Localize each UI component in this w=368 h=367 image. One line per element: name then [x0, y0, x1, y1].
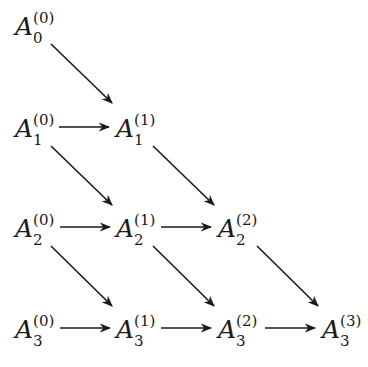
node-subscript: 2 [134, 233, 144, 248]
arrow-A22-to-A33 [257, 246, 318, 306]
node-subscript: 2 [33, 233, 43, 248]
node-subscript: 3 [236, 334, 246, 349]
node-base: A [116, 116, 134, 141]
node-base: A [116, 216, 134, 241]
node-base: A [15, 116, 33, 141]
node-base: A [322, 317, 340, 342]
arrow-A11-to-A22 [153, 146, 214, 205]
arrow-A00-to-A11 [51, 44, 112, 103]
node-base: A [116, 317, 134, 342]
node-subscript: 2 [236, 233, 246, 248]
arrow-A20-to-A31 [51, 246, 112, 306]
node-A1-1: A(1)1 [116, 116, 160, 150]
node-subscript: 3 [134, 334, 144, 349]
node-superscript: (2) [236, 213, 257, 228]
node-superscript: (0) [33, 11, 54, 26]
node-superscript: (0) [33, 113, 54, 128]
node-base: A [15, 317, 33, 342]
node-subscript: 1 [33, 133, 43, 148]
node-A3-3: A(3)3 [322, 317, 366, 351]
node-A2-0: A(0)2 [15, 216, 59, 250]
node-A3-0: A(0)3 [15, 317, 59, 351]
node-base: A [15, 216, 33, 241]
node-A2-2: A(2)2 [218, 216, 262, 250]
arrow-A10-to-A21 [51, 146, 112, 205]
node-superscript: (2) [236, 314, 257, 329]
node-subscript: 3 [340, 334, 350, 349]
node-superscript: (1) [134, 314, 155, 329]
node-subscript: 0 [33, 31, 43, 46]
node-A3-1: A(1)3 [116, 317, 160, 351]
node-base: A [218, 317, 236, 342]
node-subscript: 1 [134, 133, 144, 148]
node-superscript: (3) [340, 314, 361, 329]
node-superscript: (1) [134, 213, 155, 228]
arrows-layer [0, 0, 368, 367]
node-base: A [15, 14, 33, 39]
diagram-canvas: A(0)0 A(0)1 A(1)1 A(0)2 A(1)2 A(2)2 A(0)… [0, 0, 368, 367]
node-A2-1: A(1)2 [116, 216, 160, 250]
node-A1-0: A(0)1 [15, 116, 59, 150]
arrow-A21-to-A32 [153, 246, 214, 306]
node-subscript: 3 [33, 334, 43, 349]
node-superscript: (1) [134, 113, 155, 128]
node-base: A [218, 216, 236, 241]
node-superscript: (0) [33, 314, 54, 329]
node-A0-0: A(0)0 [15, 14, 59, 48]
node-A3-2: A(2)3 [218, 317, 262, 351]
node-superscript: (0) [33, 213, 54, 228]
